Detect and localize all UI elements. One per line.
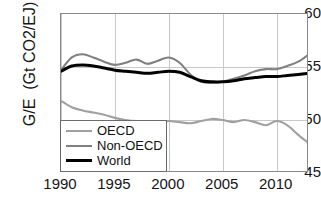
chart-figure: G/E (Gt CO2/EJ) 60 55 50 45 1990 1995 20…: [0, 0, 321, 200]
y-axis-title: G/E (Gt CO2/EJ): [18, 0, 42, 144]
legend-label-non-oecd: Non-OECD: [97, 138, 163, 153]
x-tick-label: 2010: [241, 175, 311, 192]
legend-swatch-oecd: [66, 130, 92, 132]
series-line-non-oecd: [61, 54, 308, 83]
legend-item-oecd: OECD: [66, 123, 166, 138]
legend-swatch-world: [66, 159, 92, 162]
legend-label-oecd: OECD: [97, 123, 135, 138]
legend: OECD Non-OECD World: [60, 120, 167, 172]
legend-item-non-oecd: Non-OECD: [66, 138, 166, 153]
legend-label-world: World: [97, 153, 131, 168]
legend-swatch-non-oecd: [66, 145, 92, 147]
legend-item-world: World: [66, 153, 166, 168]
